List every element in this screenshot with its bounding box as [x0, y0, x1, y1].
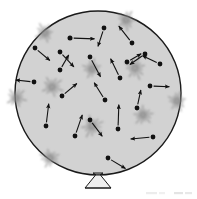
particle-16-dot: [44, 124, 49, 129]
particle-12-dot: [60, 94, 65, 99]
particle-11-dot: [148, 84, 153, 89]
vessel-stand: [85, 173, 111, 188]
particle-17-dot: [73, 134, 78, 139]
particle-1-velocity-arrow: [74, 38, 95, 39]
particle-14-dot: [135, 106, 140, 111]
particle-7-dot: [33, 46, 38, 51]
particle-10-dot: [118, 76, 123, 81]
particle-22-dot: [125, 60, 130, 65]
particle-3-dot: [130, 41, 135, 46]
particle-2-dot: [102, 26, 107, 31]
particle-4-dot: [58, 50, 63, 55]
particle-15-dot: [88, 118, 93, 123]
particle-19-dot: [151, 135, 156, 140]
particle-20-dot: [106, 156, 111, 161]
figure-container: [0, 0, 197, 199]
particle-13-dot: [103, 98, 108, 103]
particle-18-velocity-arrow: [118, 105, 119, 126]
particle-11-velocity-arrow: [154, 86, 170, 87]
particle-8-dot: [158, 62, 163, 67]
gas-vessel-diagram: [0, 0, 197, 199]
particle-18-dot: [116, 127, 121, 132]
particle-1-dot: [68, 36, 73, 41]
particle-5-dot: [88, 55, 93, 60]
particle-21-dot: [58, 68, 63, 73]
particle-9-dot: [32, 80, 37, 85]
stand-base: [85, 175, 111, 188]
